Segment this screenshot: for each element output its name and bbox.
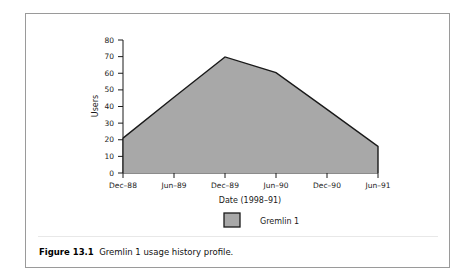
y-tick-label-0: 0	[109, 169, 114, 178]
y-tick-label-20: 20	[104, 135, 114, 144]
x-tick-label-dec-88: Dec–88	[109, 181, 137, 190]
x-tick-label-dec-89: Dec–89	[211, 181, 239, 190]
y-axis-title: Users	[91, 95, 100, 117]
x-tick-label-jun-89: Jun–89	[160, 181, 186, 190]
y-tick-label-40: 40	[104, 102, 114, 111]
figure-caption: Figure 13.1 Gremlin 1 usage history prof…	[39, 246, 439, 258]
y-tick-label-70: 70	[104, 52, 114, 61]
y-tick-label-10: 10	[104, 152, 114, 161]
legend-label-gremlin-1: Gremlin 1	[260, 217, 299, 226]
figure-caption-text: Gremlin 1 usage history profile.	[99, 247, 233, 257]
chart-area: 0 10 20 30 40 50 60 70 80	[26, 14, 451, 229]
y-tick-label-60: 60	[104, 69, 114, 78]
y-tick-label-50: 50	[104, 85, 114, 94]
x-tick-label-jun-91: Jun–91	[364, 181, 390, 190]
x-axis-title: Date (1998–91)	[219, 196, 281, 205]
y-tick-label-80: 80	[104, 36, 114, 45]
figure-caption-label: Figure 13.1	[39, 247, 94, 257]
caption-separator	[38, 236, 438, 237]
usage-history-area-chart: 0 10 20 30 40 50 60 70 80	[26, 14, 451, 229]
x-tick-label-dec-90: Dec–90	[313, 181, 341, 190]
legend-swatch-gremlin-1	[224, 213, 240, 227]
x-tick-label-jun-90: Jun–90	[262, 181, 288, 190]
y-axis-tick-labels: 0 10 20 30 40 50 60 70 80	[104, 36, 114, 178]
y-tick-label-30: 30	[104, 119, 114, 128]
chart-legend: Gremlin 1	[224, 213, 299, 227]
figure-panel: 0 10 20 30 40 50 60 70 80	[25, 13, 450, 268]
y-axis-ticks	[118, 40, 123, 173]
